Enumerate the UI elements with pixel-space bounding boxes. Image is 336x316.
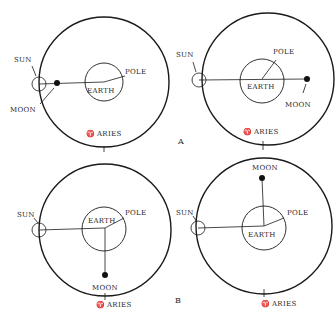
sun-label: SUN [14, 56, 32, 64]
diagram-bottom-right: MOON SUN POLE EARTH ♈ ARIES [176, 158, 332, 308]
aries-label: ARIES [271, 300, 297, 308]
aries-symbol: ♈ [261, 299, 270, 308]
earth-label: EARTH [87, 87, 115, 95]
moon-dot [259, 175, 265, 181]
sun-label: SUN [176, 51, 194, 59]
moon-dot [304, 76, 310, 82]
moon-dot [102, 272, 108, 278]
aries-symbol: ♈ [96, 300, 105, 309]
pole-label: POLE [125, 68, 146, 76]
earth-moon-line [262, 178, 264, 226]
sun-pointer [193, 62, 196, 72]
moon-label: MOON [252, 164, 278, 172]
moon-position-diagrams: SUN MOON EARTH POLE ♈ ARIES SUN POLE EAR… [0, 0, 336, 316]
moon-label: MOON [10, 106, 36, 114]
moon-pointer [303, 84, 306, 93]
panel-label-b: B [175, 296, 181, 305]
aries-symbol: ♈ [86, 129, 95, 138]
aries-label: ARIES [96, 130, 122, 138]
aries-symbol: ♈ [243, 127, 252, 136]
pole-label: POLE [287, 209, 308, 217]
sun-earth-line [39, 228, 105, 230]
sun-moon-line [199, 79, 307, 80]
pole-label: POLE [273, 48, 294, 56]
diagram-top-right: SUN POLE EARTH MOON ♈ ARIES [176, 13, 334, 150]
diagram-top-left: SUN MOON EARTH POLE ♈ ARIES [10, 17, 169, 152]
pole-pointer [104, 76, 125, 82]
panel-label-a: A [177, 137, 184, 146]
aries-label: ARIES [253, 128, 279, 136]
sun-earth-line [198, 226, 264, 228]
moon-label: MOON [92, 284, 118, 292]
diagram-bottom-left: SUN EARTH POLE MOON ♈ ARIES [17, 164, 171, 309]
pole-pointer [262, 60, 276, 79]
sun-earth-line [39, 82, 104, 84]
earth-circle [240, 59, 284, 103]
aries-label: ARIES [106, 301, 132, 309]
sun-label: SUN [176, 209, 194, 217]
sun-pointer [32, 66, 36, 76]
sun-label: SUN [17, 211, 35, 219]
earth-circle [242, 206, 286, 250]
pole-label: POLE [125, 209, 146, 217]
earth-label: EARTH [247, 83, 275, 91]
pole-pointer [264, 218, 284, 226]
earth-label: EARTH [248, 231, 276, 239]
moon-label: MOON [285, 101, 311, 109]
earth-circle [82, 207, 126, 251]
moon-dot [54, 80, 60, 86]
earth-label: EARTH [88, 217, 116, 225]
